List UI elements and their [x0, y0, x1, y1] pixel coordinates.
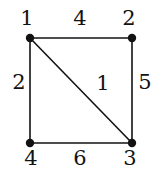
vertex-1-node: [26, 34, 34, 42]
edge-2-3-weight-label: 5: [134, 72, 156, 93]
vertex-3-label: 3: [119, 148, 141, 169]
edge-1-2-weight-label: 4: [69, 8, 91, 29]
vertex-4-label: 4: [20, 148, 42, 169]
vertex-1-label: 1: [16, 8, 38, 29]
vertex-2-node: [128, 34, 136, 42]
edge-1-3-diagonal: [30, 38, 132, 143]
graph-figure: 1 2 3 4 4 2 5 6 1: [0, 0, 158, 177]
edge-4-3-weight-label: 6: [69, 148, 91, 169]
edge-1-4-weight-label: 2: [8, 72, 30, 93]
edge-1-3-weight-label: 1: [92, 73, 114, 94]
vertex-2-label: 2: [118, 8, 140, 29]
